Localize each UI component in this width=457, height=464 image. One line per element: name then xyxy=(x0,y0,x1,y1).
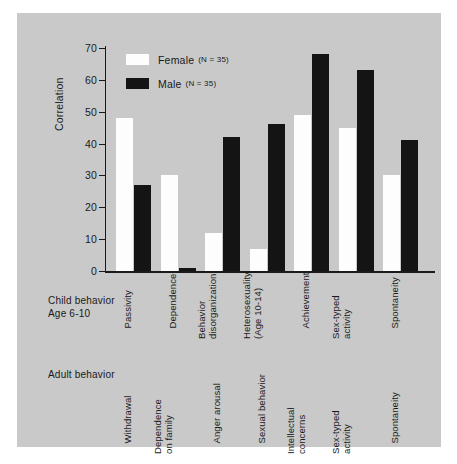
child-behavior-label-5: Sex-typed activity xyxy=(331,295,352,339)
chart-legend: Female(N = 35)Male(N = 35) xyxy=(126,51,229,99)
y-tick-mark xyxy=(99,271,105,272)
adult-behavior-label-0: Withdrawal xyxy=(123,396,134,444)
adult-behavior-label-6: Spontaneity xyxy=(390,392,401,443)
child-behavior-label-1: Dependence xyxy=(167,274,178,329)
bar-male-4 xyxy=(312,54,329,271)
bar-female-5 xyxy=(339,128,356,271)
child-behavior-label-0: Passivity xyxy=(123,290,134,328)
bar-female-3 xyxy=(250,249,267,271)
x-axis-line xyxy=(105,271,435,273)
bar-female-4 xyxy=(294,115,311,271)
child-behavior-label-6: Spontaneity xyxy=(390,277,401,328)
y-tick-label: 40 xyxy=(85,138,97,150)
legend-swatch-male xyxy=(126,78,149,89)
legend-swatch-female xyxy=(126,54,149,65)
child-behavior-label-4: Achievement xyxy=(301,272,312,328)
y-tick-label: 30 xyxy=(85,169,97,181)
adult-behavior-label-1: Dependence on family xyxy=(153,399,174,454)
bar-male-5 xyxy=(357,70,374,271)
adult-behavior-label-3: Sexual behavior xyxy=(256,374,267,444)
child-behavior-label-2: Behavior disorganization xyxy=(197,274,218,339)
bar-female-1 xyxy=(161,175,178,271)
y-tick-label: 60 xyxy=(85,74,97,86)
y-axis-title: Correlation xyxy=(53,77,65,131)
bar-male-1 xyxy=(179,268,196,271)
bar-male-6 xyxy=(401,140,418,271)
legend-item-female: Female(N = 35) xyxy=(126,51,229,68)
legend-item-male: Male(N = 35) xyxy=(126,75,229,92)
legend-sample-size: (N = 35) xyxy=(198,55,229,64)
adult-behavior-label-2: Anger arousal xyxy=(212,383,223,443)
legend-sample-size: (N = 35) xyxy=(186,79,217,88)
adult-behavior-label-5: Sex-typed activity xyxy=(331,410,352,454)
legend-label: Male xyxy=(158,78,182,90)
adult-behavior-row-title: Adult behavior xyxy=(48,369,115,382)
bar-female-6 xyxy=(383,175,400,271)
child-behavior-label-3: Heterosexuality (Age 10-14) xyxy=(242,272,263,339)
bar-male-0 xyxy=(134,185,151,271)
legend-label: Female xyxy=(158,54,194,66)
child-behavior-row-title: Child behavior Age 6-10 xyxy=(48,295,115,320)
bar-male-3 xyxy=(268,124,285,271)
bar-female-2 xyxy=(205,233,222,271)
y-tick-label: 50 xyxy=(85,106,97,118)
y-tick-label: 70 xyxy=(85,42,97,54)
y-tick-label: 0 xyxy=(91,265,97,277)
y-tick-label: 20 xyxy=(85,201,97,213)
adult-behavior-label-4: Intellectual concerns xyxy=(286,407,307,454)
y-tick-label: 10 xyxy=(85,233,97,245)
bar-female-0 xyxy=(116,118,133,271)
chart-screenshot: 706050403020100 Correlation Female(N = 3… xyxy=(0,0,457,464)
bar-male-2 xyxy=(223,137,240,271)
chart-panel: 706050403020100 Correlation Female(N = 3… xyxy=(17,13,441,447)
